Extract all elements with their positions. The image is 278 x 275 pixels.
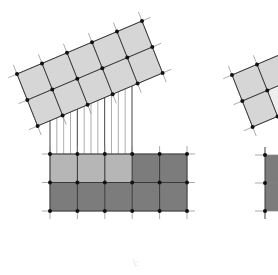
vertex-dot [185,152,189,156]
vertex-dot [125,56,129,60]
diagram-canvas [0,0,278,275]
vertex-dot [158,209,162,213]
target-cell [50,154,77,183]
vertex-dot [230,73,234,77]
target-cell [77,183,104,212]
target-cell [77,154,104,183]
target-cell [160,183,187,212]
vertex-dot [130,209,134,213]
rotated-grid-partial [223,45,278,136]
vertex-dot [15,72,19,76]
vertex-dot [185,181,189,185]
vertex-dot [140,19,144,23]
vertex-dot [240,99,244,103]
figure-caption: \: [133,258,139,268]
vertex-dot [103,152,107,156]
vertex-dot [158,152,162,156]
vertex-dot [130,181,134,185]
vertex-dot [75,209,79,213]
vertex-dot [185,209,189,213]
vertex-dot [48,209,52,213]
vertex-dot [103,209,107,213]
vertex-dot [115,30,119,34]
vertex-dot [65,51,69,55]
vertex-dot [25,98,29,102]
vertex-dot [75,152,79,156]
target-cell [105,154,132,183]
vertex-dot [86,103,90,107]
vertex-dot [36,124,40,128]
vertex-dot [40,61,44,65]
left-panel [8,12,195,219]
vertex-dot [48,181,52,185]
vertex-dot [103,181,107,185]
vertex-dot [263,209,267,213]
target-cell [160,154,187,183]
target-grid [42,146,195,219]
target-cell [132,183,159,212]
vertex-dot [150,45,154,49]
vertex-dot [130,152,134,156]
vertex-dot [100,66,104,70]
vertex-dot [61,113,65,117]
vertex-dot [251,125,255,129]
vertex-dot [50,87,54,91]
target-grid-partial [255,147,278,219]
vertex-dot [90,40,94,44]
target-cell [132,154,159,183]
target-cell [50,183,77,212]
vertex-dot [263,153,267,157]
vertex-dot [111,92,115,96]
vertex-dot [136,82,140,86]
vertex-dot [161,71,165,75]
vertex-dot [265,88,269,92]
rotated-grid [8,12,171,135]
vertex-dot [255,62,259,66]
right-panel [223,45,278,219]
vertex-dot [75,181,79,185]
target-cell [105,183,132,212]
vertex-dot [48,152,52,156]
vertex-dot [75,77,79,81]
vertex-dot [263,181,267,185]
vertex-dot [158,181,162,185]
